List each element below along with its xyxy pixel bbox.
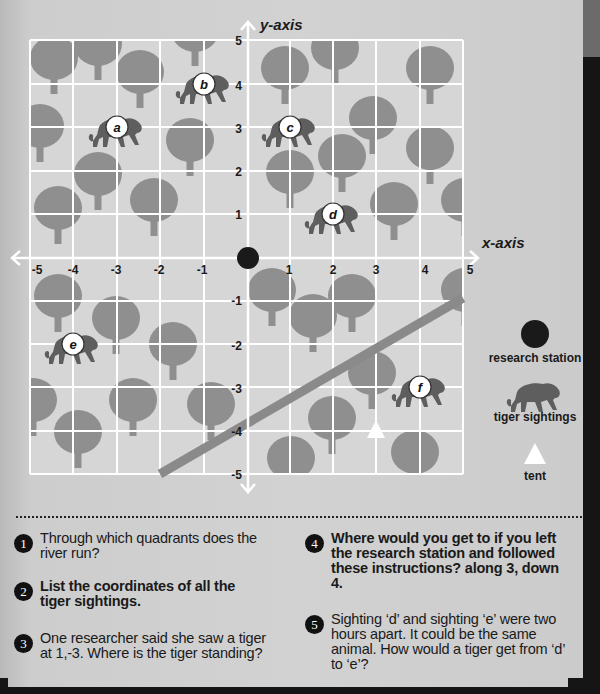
y-tick: -5: [222, 468, 242, 482]
question-number-badge: 5: [305, 615, 324, 634]
y-tick: -2: [222, 339, 242, 353]
y-tick: 3: [222, 122, 242, 136]
question-number-badge: 2: [14, 582, 33, 601]
x-tick: -4: [68, 263, 79, 277]
x-tick: -1: [197, 263, 208, 277]
svg-text:d: d: [329, 207, 338, 222]
x-tick: 1: [286, 263, 293, 277]
question-number-badge: 1: [14, 534, 33, 553]
y-tick: 2: [222, 165, 242, 179]
legend-research-station-icon: [521, 320, 549, 348]
y-tick: -4: [222, 425, 242, 439]
question-text: Sighting ‘d’ and sighting ‘e’ were two h…: [331, 612, 570, 672]
y-tick: 5: [222, 34, 242, 48]
question-2: 2 List the coordinates of all the tiger …: [14, 579, 264, 609]
question-3: 3 One researcher said she saw a tiger at…: [14, 631, 274, 661]
legend-tiger-label: tiger sightings: [480, 410, 590, 424]
dotted-separator: [15, 516, 583, 518]
x-tick: 2: [330, 263, 337, 277]
question-number-badge: 3: [14, 634, 33, 653]
y-tick: -3: [222, 382, 242, 396]
x-tick: 3: [373, 263, 380, 277]
question-text: List the coordinates of all the tiger si…: [40, 579, 264, 609]
x-tick: 5: [467, 263, 474, 277]
y-tick: 4: [222, 79, 242, 93]
y-axis-label: y-axis: [260, 16, 303, 33]
svg-text:a: a: [113, 120, 120, 135]
question-5: 5 Sighting ‘d’ and sighting ‘e’ were two…: [305, 612, 570, 672]
question-text: Through which quadrants does the river r…: [40, 531, 264, 561]
y-tick: 1: [222, 208, 242, 222]
question-text: Where would you get to if you left the r…: [331, 531, 565, 591]
y-tick: -1: [222, 294, 242, 308]
question-4: 4 Where would you get to if you left the…: [305, 531, 565, 591]
question-1: 1 Through which quadrants does the river…: [14, 531, 264, 561]
x-tick: -5: [32, 263, 43, 277]
x-tick: -2: [154, 263, 165, 277]
svg-text:e: e: [69, 337, 76, 352]
svg-text:b: b: [200, 77, 208, 92]
x-axis-label: x-axis: [482, 234, 525, 251]
question-text: One researcher said she saw a tiger at 1…: [40, 631, 274, 661]
svg-text:c: c: [286, 120, 294, 135]
research-station-dot: [237, 247, 259, 269]
x-tick: 4: [422, 263, 429, 277]
legend-tiger-icon: [507, 383, 560, 412]
legend-tent-icon: [524, 443, 546, 464]
legend-tent-label: tent: [480, 469, 590, 483]
x-tick: -3: [111, 263, 122, 277]
legend-research-station-label: research station: [480, 351, 590, 365]
question-number-badge: 4: [305, 534, 324, 553]
